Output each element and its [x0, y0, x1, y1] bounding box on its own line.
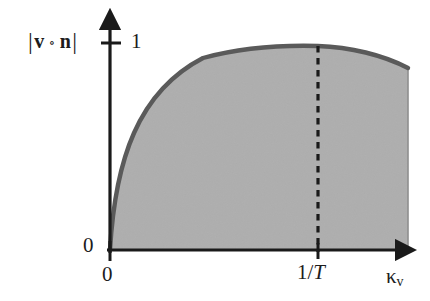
x-axis-label: κv — [386, 266, 404, 289]
y-axis-label-bar-right: | — [72, 28, 77, 54]
y-tick-label-zero: 0 — [83, 235, 94, 256]
x-axis-label-subscript: v — [397, 274, 404, 289]
y-axis-label: |v∘n| — [28, 29, 78, 53]
x-tick-label-one-over-T: 1/T — [297, 262, 325, 283]
x-axis-label-base: κ — [386, 264, 397, 288]
y-axis-label-vector-n: n — [59, 30, 73, 52]
area-fill-group — [110, 46, 408, 250]
area-fill-texture — [110, 46, 408, 250]
y-tick-label-one: 1 — [131, 31, 142, 52]
chart-figure: |v∘n| 1 0 0 1/T κv — [0, 0, 430, 301]
x-tick-label-zero: 0 — [102, 264, 113, 285]
x-tick-label-numerator: 1/ — [297, 260, 313, 284]
composition-operator-icon: ∘ — [46, 35, 59, 50]
x-tick-label-denominator: T — [313, 260, 325, 284]
y-axis-label-vector-v: v — [33, 30, 46, 52]
